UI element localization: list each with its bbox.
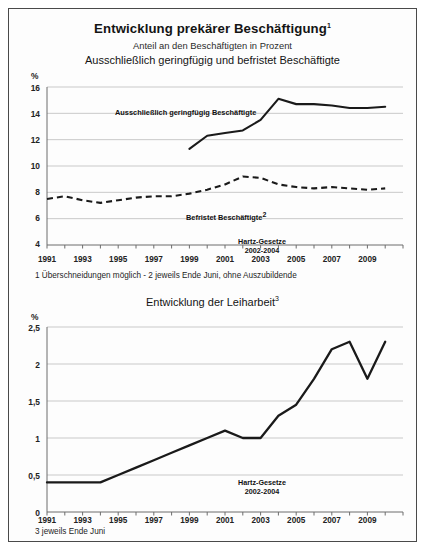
chart-1-series-befristet-line bbox=[47, 177, 385, 203]
chart-1-hartz-annotation-line2: 2002-2004 bbox=[207, 246, 317, 255]
xaxis-tick-label-2007: 2007 bbox=[315, 516, 349, 525]
xaxis-tick-label-2005: 2005 bbox=[279, 255, 313, 264]
figure-frame: Entwicklung prekärer Beschäftigung1 Ante… bbox=[8, 8, 417, 542]
chart-1-hartz-annotation-line1: Hartz-Gesetze bbox=[207, 237, 317, 246]
chart-1-ytick-10: 10 bbox=[14, 161, 40, 171]
chart-2-xaxis-ticks bbox=[47, 512, 403, 516]
xaxis-tick-label-2005: 2005 bbox=[279, 516, 313, 525]
chart-2-ytick-1-5: 1,5 bbox=[14, 397, 40, 407]
xaxis-tick-label-2001: 2001 bbox=[208, 516, 242, 525]
chart-2-unit-label: % bbox=[31, 312, 38, 322]
chart-1-ytick-8: 8 bbox=[14, 187, 40, 197]
xaxis-tick-label-1997: 1997 bbox=[137, 516, 171, 525]
chart-2-hartz-annotation-line2: 2002-2004 bbox=[207, 487, 317, 496]
chart-2-title-superscript: 3 bbox=[275, 295, 279, 302]
chart-1-ytick-4: 4 bbox=[14, 239, 40, 249]
chart-1-series-label-befristet-text: Befristet Beschäftigte bbox=[186, 213, 262, 222]
page-title-superscript: 1 bbox=[327, 22, 331, 29]
chart-2-gridlines bbox=[47, 327, 403, 475]
chart-1-ytick-14: 14 bbox=[14, 109, 40, 119]
chart-1-series-label-geringfuegig: Ausschließlich geringfügig Beschäftigte bbox=[115, 108, 256, 117]
xaxis-tick-label-2007: 2007 bbox=[315, 255, 349, 264]
chart-2-hartz-annotation: Hartz-Gesetze 2002-2004 bbox=[207, 478, 317, 496]
chart-1-series-label-befristet-superscript: 2 bbox=[262, 211, 266, 218]
chart-1-gridlines bbox=[47, 87, 403, 219]
xaxis-tick-label-1995: 1995 bbox=[101, 516, 135, 525]
xaxis-tick-label-1993: 1993 bbox=[66, 255, 100, 264]
xaxis-tick-label-1997: 1997 bbox=[137, 255, 171, 264]
chart-2-ytick-2-5: 2,5 bbox=[14, 323, 40, 333]
chart-1-footnote: 1 Überschneidungen möglich - 2 jeweils E… bbox=[35, 271, 297, 280]
chart-2-ytick-2: 2 bbox=[14, 360, 40, 370]
xaxis-tick-label-1995: 1995 bbox=[101, 255, 135, 264]
xaxis-tick-label-2001: 2001 bbox=[208, 255, 242, 264]
page-title-text: Entwicklung prekärer Beschäftigung bbox=[94, 21, 327, 36]
chart-2-hartz-annotation-line1: Hartz-Gesetze bbox=[207, 478, 317, 487]
xaxis-tick-label-1993: 1993 bbox=[66, 516, 100, 525]
chart-2-ytick-1: 1 bbox=[14, 434, 40, 444]
xaxis-tick-label-2009: 2009 bbox=[350, 255, 384, 264]
chart-1-subtitle: Anteil an den Beschäftigten in Prozent bbox=[9, 40, 416, 51]
chart-1-ytick-16: 16 bbox=[14, 83, 40, 93]
chart-2-title-text: Entwicklung der Leiharbeit bbox=[146, 296, 275, 308]
chart-1-ytick-6: 6 bbox=[14, 213, 40, 223]
xaxis-tick-label-1999: 1999 bbox=[172, 516, 206, 525]
page-title: Entwicklung prekärer Beschäftigung1 bbox=[9, 21, 416, 36]
xaxis-tick-label-2009: 2009 bbox=[350, 516, 384, 525]
chart-1-ytick-12: 12 bbox=[14, 135, 40, 145]
chart-2-title: Entwicklung der Leiharbeit3 bbox=[9, 295, 416, 308]
xaxis-tick-label-1999: 1999 bbox=[172, 255, 206, 264]
chart-1-unit-label: % bbox=[31, 71, 38, 81]
xaxis-tick-label-1991: 1991 bbox=[30, 255, 64, 264]
xaxis-tick-label-2003: 2003 bbox=[244, 255, 278, 264]
xaxis-tick-label-2003: 2003 bbox=[244, 516, 278, 525]
chart-2-footnote: 3 jeweils Ende Juni bbox=[35, 527, 105, 536]
xaxis-tick-label-1991: 1991 bbox=[30, 516, 64, 525]
chart-1-series-geringfuegig-line bbox=[189, 99, 385, 149]
chart-2-series-leiharbeit-line bbox=[47, 342, 385, 483]
chart-1-series-label-befristet: Befristet Beschäftigte2 bbox=[186, 211, 266, 222]
chart-1-subtitle-secondary: Ausschließlich geringfügig und befristet… bbox=[9, 54, 416, 66]
chart-1-hartz-annotation: Hartz-Gesetze 2002-2004 bbox=[207, 237, 317, 255]
chart-2-ytick-0-5: 0,5 bbox=[14, 471, 40, 481]
